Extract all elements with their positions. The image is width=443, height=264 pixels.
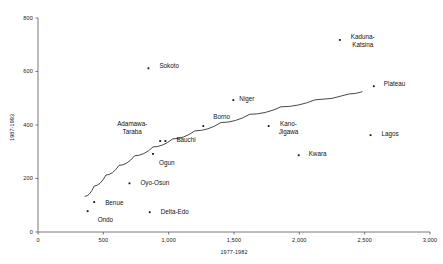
- x-tick-label: 1,000: [149, 237, 189, 243]
- data-point-marker: [268, 125, 270, 127]
- data-point-label-line: Niger: [239, 95, 254, 103]
- data-point-label: Kwara: [309, 150, 327, 158]
- chart-figure: 020040060080005001,0001,5002,0002,5003,0…: [0, 0, 443, 264]
- data-point-label: Oyo-Osun: [140, 179, 169, 187]
- data-point-marker: [152, 153, 154, 155]
- data-point-label-line: Lagos: [382, 130, 399, 138]
- y-tick-label: 200: [0, 175, 33, 181]
- data-point-label-line: Jigawa: [279, 128, 299, 136]
- data-point-marker: [148, 67, 150, 69]
- data-point-label-line: Plateau: [384, 80, 405, 88]
- data-point-label: Kano-Jigawa: [279, 120, 299, 136]
- data-point-marker: [129, 182, 131, 184]
- data-point-label-line: Sokoto: [159, 62, 179, 70]
- data-point-label: Borno: [213, 113, 230, 121]
- y-tick-label: 600: [0, 68, 33, 74]
- data-point-marker: [232, 99, 234, 101]
- data-point-label-line: Borno: [213, 113, 230, 121]
- data-point-label: Ogun: [159, 159, 174, 167]
- data-point-label-line: Adamawa-: [117, 120, 147, 128]
- data-point-label-line: Kaduna-: [351, 33, 375, 41]
- axes: [38, 18, 430, 232]
- data-point-label: Sokoto: [159, 62, 179, 70]
- x-axis-title: 1977-1982: [212, 249, 256, 255]
- x-tick-label: 2,500: [345, 237, 385, 243]
- x-tick-label: 2,000: [279, 237, 319, 243]
- data-point-marker: [339, 39, 341, 41]
- data-point-label: Adamawa-Taraba: [117, 120, 147, 136]
- data-point-marker: [202, 125, 204, 127]
- x-tick-label: 500: [83, 237, 123, 243]
- data-point-label: Niger: [239, 95, 254, 103]
- x-tick-label: 0: [18, 237, 58, 243]
- data-point-label-line: Ondo: [98, 216, 113, 224]
- data-point-label-line: Benue: [105, 199, 123, 207]
- data-point-label-line: Bauchi: [176, 136, 195, 144]
- data-point-label: Benue: [105, 199, 123, 207]
- data-point-label: Bauchi: [176, 136, 195, 144]
- data-point-label-line: Kano-: [279, 120, 299, 128]
- data-point-label-line: Taraba: [117, 128, 147, 136]
- data-point-label-line: Oyo-Osun: [140, 179, 169, 187]
- data-point-label-line: Kwara: [309, 150, 327, 158]
- data-point-label: Lagos: [382, 130, 399, 138]
- y-axis-title: 1987-1993: [9, 114, 15, 141]
- data-point-marker: [87, 210, 89, 212]
- data-point-marker: [165, 140, 167, 142]
- data-point-label-line: Ogun: [159, 159, 174, 167]
- data-point-marker: [93, 201, 95, 203]
- y-tick-label: 400: [0, 122, 33, 128]
- data-point-label: Plateau: [384, 80, 405, 88]
- data-point-label-line: Katsina: [351, 41, 375, 49]
- data-point-marker: [370, 134, 372, 136]
- chart-canvas: [0, 0, 443, 264]
- data-point-label: Kaduna-Katsina: [351, 33, 375, 49]
- data-point-label-line: Delta-Edo: [161, 208, 189, 216]
- data-point-label: Delta-Edo: [161, 208, 189, 216]
- data-point-label: Ondo: [98, 216, 113, 224]
- y-tick-label: 0: [0, 229, 33, 235]
- data-point-marker: [149, 211, 151, 213]
- y-tick-label: 800: [0, 15, 33, 21]
- data-point-marker: [159, 140, 161, 142]
- x-tick-label: 1,500: [214, 237, 254, 243]
- x-tick-label: 3,000: [410, 237, 443, 243]
- data-point-marker: [373, 85, 375, 87]
- data-point-marker: [298, 154, 300, 156]
- trend-line: [85, 92, 362, 197]
